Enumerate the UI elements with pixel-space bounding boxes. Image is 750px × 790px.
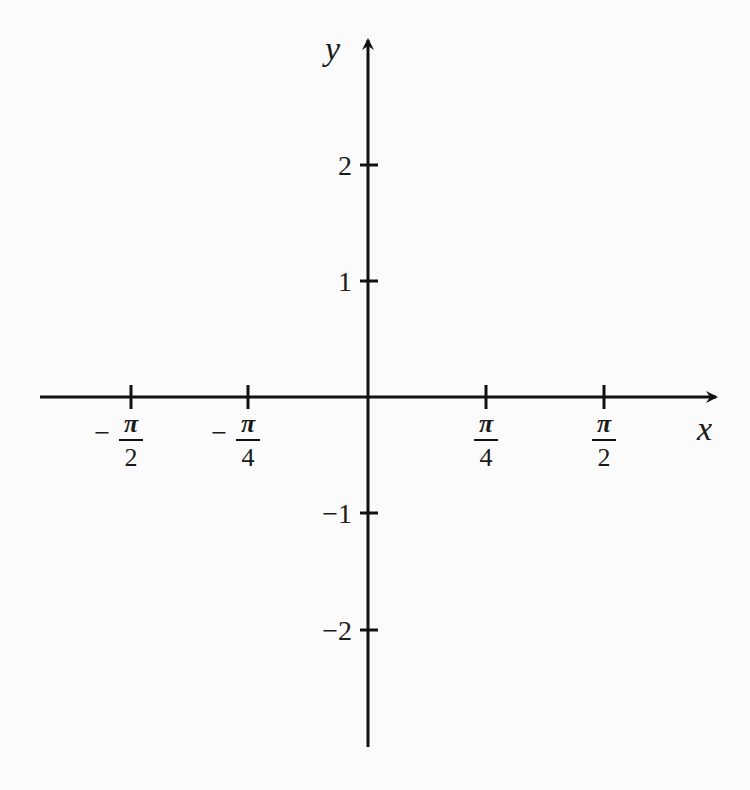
svg-text:1: 1 <box>338 266 352 297</box>
svg-text:4: 4 <box>480 443 493 472</box>
y-tick-neg2: −2 <box>322 615 378 646</box>
svg-text:−1: −1 <box>322 498 352 529</box>
svg-text:2: 2 <box>125 443 138 472</box>
svg-text:2: 2 <box>338 150 352 181</box>
svg-text:π: π <box>124 409 139 438</box>
svg-text:4: 4 <box>242 443 255 472</box>
svg-text:−: − <box>94 417 110 448</box>
svg-text:−: − <box>211 417 227 448</box>
svg-text:π: π <box>597 409 612 438</box>
svg-text:−2: −2 <box>322 615 352 646</box>
y-tick-neg1: −1 <box>322 498 378 529</box>
x-axis-label: x <box>696 410 712 447</box>
y-tick-1: 1 <box>338 266 378 297</box>
svg-text:π: π <box>241 409 256 438</box>
y-tick-2: 2 <box>338 150 378 181</box>
svg-text:π: π <box>479 409 494 438</box>
coordinate-axes-plot: x y 2 1 −1 −2 − π 2 − π 4 π 4 π <box>0 0 750 790</box>
svg-text:2: 2 <box>598 443 611 472</box>
y-axis-label: y <box>322 30 341 67</box>
